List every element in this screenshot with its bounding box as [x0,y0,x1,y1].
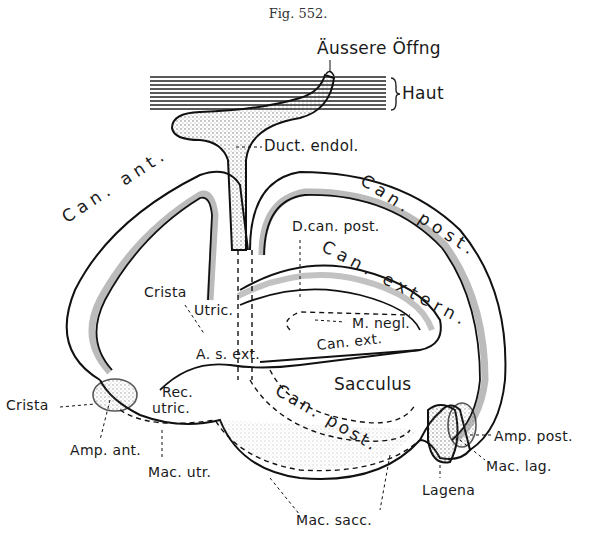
ampulla-posterior [448,403,476,447]
label-amp-post: Amp. post. [494,428,573,444]
label-mac-lag: Mac. lag. [486,458,552,474]
label-haut: Haut [402,83,444,103]
label-utric: Utric. [194,302,233,318]
haut-brace [391,78,400,110]
label-mac-utr: Mac. utr. [148,464,211,480]
label-duct-endol: Duct. endol. [264,137,359,155]
label-crista-top: Crista [144,284,187,300]
skin-layer [150,77,386,109]
label-aussere-offnung: Äussere Öffng [317,38,441,58]
ampulla-anterior [93,379,137,411]
label-rec: Rec. [162,384,193,400]
label-crista-left: Crista [6,397,49,413]
label-amp-ant: Amp. ant. [70,442,141,458]
label-d-can-post: D.can. post. [292,218,380,234]
label-mac-sacc: Mac. sacc. [296,512,372,528]
label-m-negl: M. negl. [352,315,410,331]
label-utric-rec: utric. [152,400,190,416]
label-sacculus: Sacculus [334,374,411,394]
label-a-s-ext: A. s. ext. [196,346,260,362]
label-lagena: Lagena [422,482,475,498]
